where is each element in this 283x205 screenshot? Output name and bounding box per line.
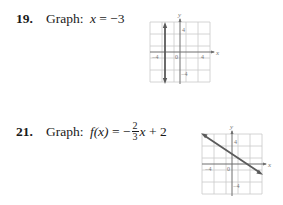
fraction: 23 — [132, 121, 139, 142]
equals-sign: = — [112, 124, 120, 139]
plotted-line-x-eq-neg3 — [163, 22, 167, 84]
equation-rhs: −3 — [110, 11, 124, 26]
tick-x-neg: −4 — [205, 166, 211, 172]
problem-instruction: Graph: — [46, 124, 84, 139]
tick-y-neg: −4 — [181, 71, 187, 77]
graph-21: x y −4 0 4 −4 — [199, 124, 271, 198]
y-axis-label: y — [229, 123, 234, 131]
equation-lhs: x — [90, 11, 96, 26]
problem-19: 19.Graph: x = −3 — [16, 12, 125, 26]
x-axis-arrow-icon — [211, 51, 215, 54]
minus-sign: − — [123, 124, 131, 139]
tick-y-pos: 4 — [182, 27, 185, 33]
y-axis-label: y — [177, 11, 182, 19]
tick-x-pos: 4 — [201, 54, 204, 60]
arrow-up-icon — [163, 22, 167, 28]
equation: f(x) = −23x + 2 — [90, 124, 167, 139]
equation: x = −3 — [90, 11, 125, 26]
tick-origin: 0 — [227, 166, 230, 172]
graph-19: x y −4 0 4 4 −4 — [148, 12, 218, 86]
equation-lhs: f(x) — [90, 124, 109, 139]
problem-21: 21.Graph: f(x) = −23x + 2 — [16, 122, 167, 143]
equals-sign: = — [99, 11, 107, 26]
tick-origin: 0 — [175, 54, 178, 60]
plus-sign: + — [149, 124, 157, 139]
arrow-down-icon — [163, 78, 167, 84]
x-axis-label: x — [215, 49, 220, 57]
problem-number: 21. — [16, 125, 46, 139]
x-axis-label: x — [267, 161, 272, 169]
x-axis-arrow-icon — [263, 163, 267, 166]
problem-instruction: Graph: — [46, 11, 84, 26]
tick-x-neg: −4 — [152, 54, 158, 60]
problem-number: 19. — [16, 12, 46, 26]
fraction-denominator: 3 — [132, 132, 139, 142]
tick-y-neg: −4 — [233, 183, 239, 189]
tick-y-pos: 4 — [234, 139, 237, 145]
equation-variable: x — [140, 124, 146, 139]
equation-constant: 2 — [160, 124, 167, 139]
